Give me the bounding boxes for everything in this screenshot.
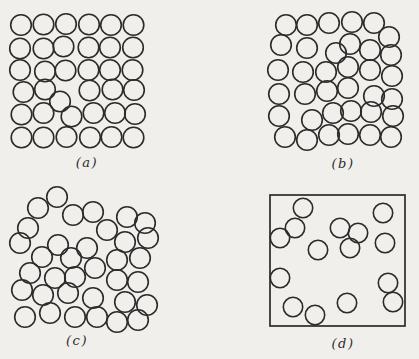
particle-circle bbox=[58, 283, 79, 304]
panel-d-label: (d) bbox=[332, 336, 355, 351]
panel-c-circles bbox=[10, 187, 159, 333]
particle-circle bbox=[270, 228, 289, 247]
particle-circle bbox=[65, 307, 86, 328]
particle-circle bbox=[270, 268, 289, 287]
particle-circle bbox=[100, 60, 121, 81]
particle-circle bbox=[128, 310, 149, 331]
particle-circle bbox=[56, 127, 77, 148]
particle-circle bbox=[56, 14, 77, 35]
particle-circle bbox=[107, 250, 128, 271]
panel-b-circles bbox=[268, 12, 404, 151]
particle-circle bbox=[283, 297, 302, 316]
particle-circle bbox=[11, 127, 32, 148]
particle-circle bbox=[271, 35, 292, 56]
particle-circle bbox=[105, 103, 126, 124]
particle-circle bbox=[101, 15, 122, 36]
particle-circle bbox=[378, 273, 397, 292]
particle-circle bbox=[360, 125, 381, 146]
panel-d-circles bbox=[270, 195, 405, 326]
particle-circle bbox=[305, 305, 324, 324]
particle-circle bbox=[337, 293, 356, 312]
particle-circle bbox=[360, 40, 381, 61]
particle-circle bbox=[33, 14, 54, 35]
particle-circle bbox=[13, 82, 34, 103]
particle-circle bbox=[268, 60, 289, 81]
particle-circle bbox=[338, 124, 359, 145]
panel-a-circles bbox=[10, 14, 146, 148]
particle-circle bbox=[123, 15, 144, 36]
states-of-order-figure: (a) (b) (c) (d) bbox=[0, 0, 419, 359]
particle-circle bbox=[317, 81, 338, 102]
particle-circle bbox=[297, 130, 318, 151]
particle-circle bbox=[63, 205, 84, 226]
particle-circle bbox=[40, 303, 61, 324]
particle-circle bbox=[55, 60, 76, 81]
particle-circle bbox=[276, 15, 297, 36]
panel-c-label: (c) bbox=[66, 333, 88, 348]
particle-circle bbox=[348, 223, 367, 242]
particle-circle bbox=[15, 307, 36, 328]
particle-circle bbox=[316, 62, 337, 83]
particle-circle bbox=[308, 240, 327, 259]
particle-circle bbox=[330, 218, 349, 237]
particle-circle bbox=[135, 213, 156, 234]
particle-circle bbox=[33, 127, 54, 148]
particle-circle bbox=[360, 60, 381, 81]
particle-circle bbox=[18, 218, 39, 239]
particle-circle bbox=[65, 267, 86, 288]
particle-circle bbox=[138, 228, 159, 249]
particle-circle bbox=[85, 258, 106, 279]
particle-circle bbox=[375, 233, 394, 252]
particle-circle bbox=[125, 104, 146, 125]
particle-circle bbox=[123, 127, 144, 148]
particle-circle bbox=[83, 202, 104, 223]
particle-circle bbox=[383, 292, 402, 311]
particle-circle bbox=[102, 79, 123, 100]
particle-circle bbox=[61, 106, 82, 127]
particle-circle bbox=[137, 295, 158, 316]
particle-circle bbox=[61, 248, 82, 269]
particle-circle bbox=[107, 312, 128, 333]
particle-circle bbox=[33, 38, 54, 59]
particle-circle bbox=[33, 103, 54, 124]
particle-circle bbox=[128, 272, 149, 293]
particle-circle bbox=[382, 66, 403, 87]
particle-circle bbox=[78, 60, 99, 81]
particle-circle bbox=[338, 78, 359, 99]
particle-circle bbox=[79, 14, 100, 35]
particle-circle bbox=[87, 307, 108, 328]
particle-circle bbox=[47, 187, 68, 208]
particle-circle bbox=[319, 125, 340, 146]
particle-circle bbox=[80, 127, 101, 148]
particle-circle bbox=[340, 238, 359, 257]
panel-b-label: (b) bbox=[332, 156, 355, 171]
particle-circle bbox=[319, 13, 340, 34]
particle-circle bbox=[285, 218, 304, 237]
particle-circle bbox=[28, 198, 49, 219]
panel-a-label: (a) bbox=[76, 155, 98, 170]
particle-circle bbox=[78, 37, 99, 58]
particle-circle bbox=[77, 238, 98, 259]
particle-circle bbox=[101, 127, 122, 148]
particle-circle bbox=[97, 220, 118, 241]
particle-circle bbox=[340, 34, 361, 55]
diagram-svg: (a) (b) (c) (d) bbox=[0, 0, 419, 359]
particle-circle bbox=[269, 106, 290, 127]
particle-circle bbox=[275, 127, 296, 148]
particle-circle bbox=[122, 60, 143, 81]
particle-circle bbox=[293, 198, 312, 217]
particle-circle bbox=[124, 80, 145, 101]
particle-circle bbox=[293, 62, 314, 83]
particle-circle bbox=[123, 37, 144, 58]
particle-circle bbox=[107, 270, 128, 291]
particle-circle bbox=[10, 38, 31, 59]
particle-circle bbox=[11, 104, 32, 125]
particle-circle bbox=[83, 288, 104, 309]
particle-circle bbox=[269, 84, 290, 105]
particle-circle bbox=[361, 102, 382, 123]
particle-circle bbox=[11, 15, 32, 36]
particle-circle bbox=[130, 248, 151, 269]
particle-circle bbox=[373, 203, 392, 222]
particle-circle bbox=[53, 36, 74, 57]
particle-circle bbox=[100, 37, 121, 58]
